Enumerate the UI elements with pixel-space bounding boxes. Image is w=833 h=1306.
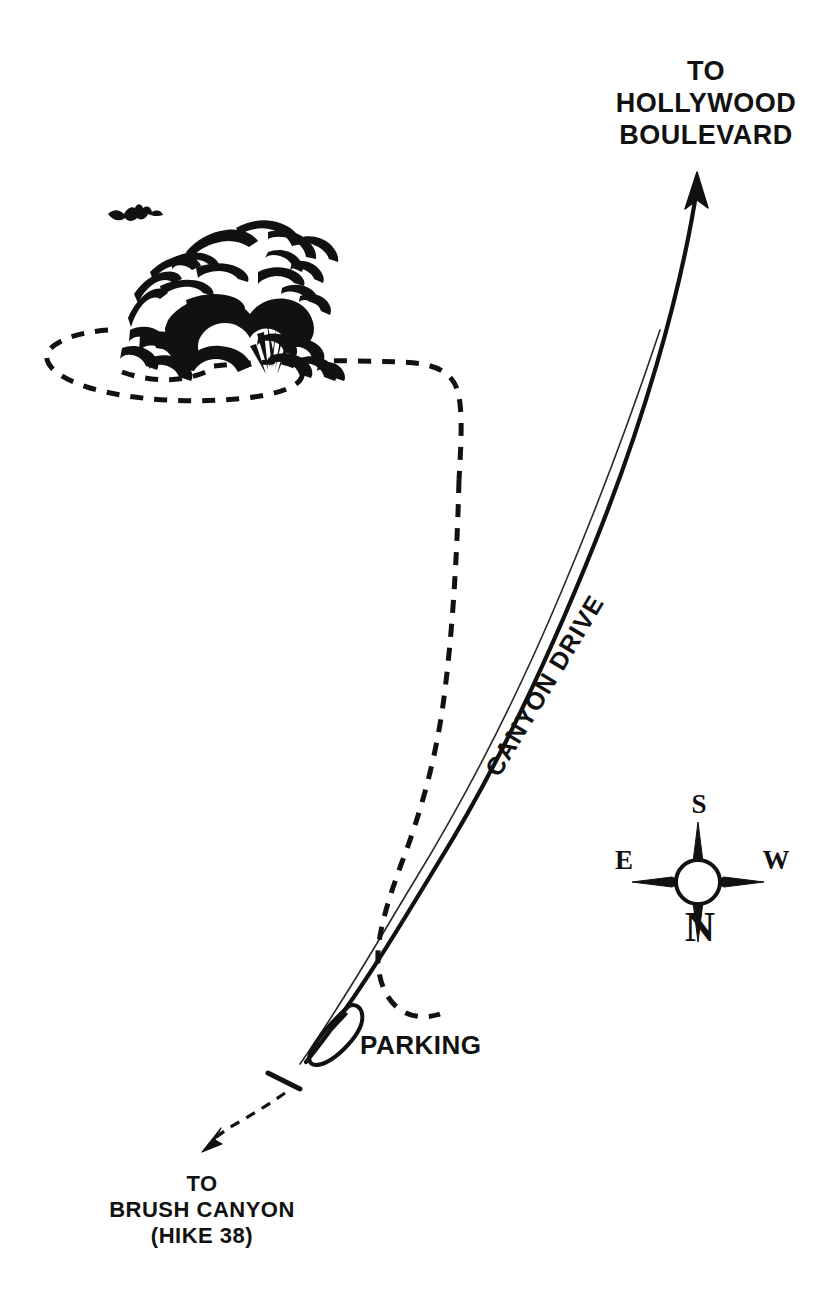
compass-label-north: N [682, 903, 718, 951]
compass-label-east: E [610, 845, 638, 876]
bat-icon [108, 204, 163, 221]
rock-outcrop [120, 220, 345, 381]
map-artwork [0, 0, 833, 1306]
compass-center-ring [676, 860, 720, 904]
parking-loop [309, 1005, 362, 1065]
compass-label-west: W [760, 845, 792, 876]
trail-arrow-south-icon [202, 1128, 222, 1152]
compass-label-south: S [684, 789, 714, 820]
trail-gate [268, 1073, 300, 1089]
label-parking: PARKING [360, 1030, 481, 1061]
label-to-hollywood-boulevard: TO HOLLYWOOD BOULEVARD [590, 56, 822, 152]
bronson-caves-trail [214, 361, 461, 1017]
label-to-brush-canyon: TO BRUSH CANYON (HIKE 38) [52, 1171, 352, 1249]
brush-canyon-spur-trail [202, 1093, 285, 1152]
trail-map: TO HOLLYWOOD BOULEVARD TO BRUSH CANYON (… [0, 0, 833, 1306]
canyon-drive-road [300, 172, 708, 1064]
